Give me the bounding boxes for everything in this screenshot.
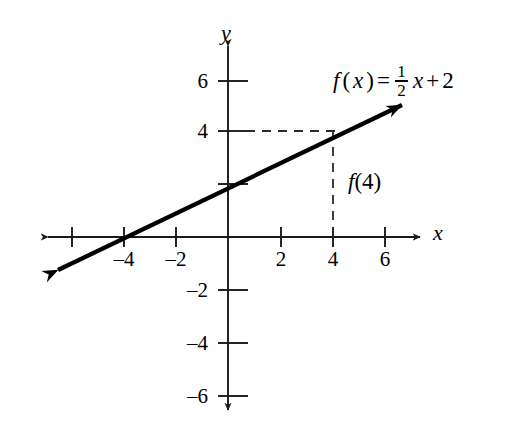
function-graph-figure: y x –4 –2 2 4 6 6 4 –2 –4 –6 f(4) f(x) =… [0,0,520,431]
x-axis-label: x [433,222,443,244]
y-tick-label-6: 6 [178,71,208,92]
x-tick-label-2: 2 [266,249,296,270]
equation-paren-open: ( [342,69,350,92]
equation-plus-sign: + [426,69,439,92]
equation-function-letter: f [333,69,339,92]
y-axis-label: y [221,22,231,44]
x-tick-label-neg2: –2 [160,249,192,270]
x-tick-label-neg4: –4 [108,249,140,270]
equation-equals-sign: = [377,69,390,92]
y-tick-label-neg4: –4 [170,333,208,354]
f-of-4-annotation: f(4) [348,170,381,193]
equation-constant: 2 [442,69,454,92]
x-tick-label-4: 4 [318,249,348,270]
fraction-numerator: 1 [395,63,408,80]
equation-variable: x [353,69,363,92]
y-axis-ticks [218,81,248,396]
f-of-4-argument: (4) [354,169,381,194]
y-tick-label-4: 4 [178,121,208,142]
equation-term-x: x [413,69,423,92]
equation-fraction-one-half: 1 2 [395,63,408,99]
fraction-denominator: 2 [395,82,408,99]
y-tick-label-neg2: –2 [170,280,208,301]
function-equation-annotation: f(x) = 1 2 x + 2 [333,62,454,98]
equation-paren-close: ) [366,69,374,92]
y-tick-label-neg6: –6 [170,386,208,407]
x-tick-label-6: 6 [370,249,400,270]
